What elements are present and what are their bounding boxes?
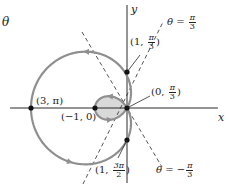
theta-symbol: θ [2, 16, 9, 28]
arrow-icon [83, 49, 89, 55]
y-axis-label: y [131, 4, 137, 15]
label-1-pi3: (1, π3) [130, 34, 160, 51]
point-neg1-0-dot [92, 105, 97, 110]
label-theta-pi-over-3: θ = π3 [167, 14, 197, 31]
label-1-3pi2: (1, 3π2) [95, 162, 130, 179]
leader-1-3pi2 [118, 140, 127, 158]
label-3-pi: (3, π) [36, 96, 63, 106]
label-theta-neg-pi-over-3: θ = −π3 [156, 162, 194, 179]
point-3-pi-dot [28, 105, 33, 110]
label-0-pi3: (0, π3) [151, 84, 181, 101]
label-neg1-0: (−1, 0) [61, 112, 96, 122]
leader-1-pi3 [127, 55, 140, 72]
x-axis-label: x [218, 112, 224, 123]
